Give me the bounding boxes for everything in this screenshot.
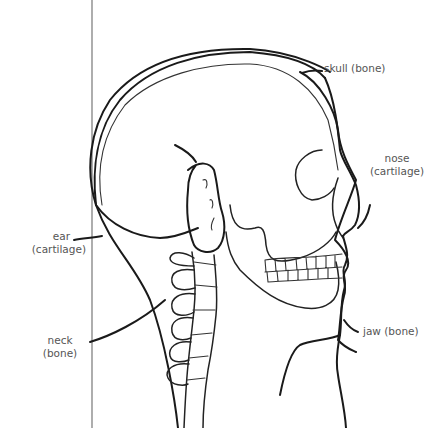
neck-label-name: neck — [40, 334, 80, 347]
skull-outer — [95, 52, 325, 205]
neck-leader — [90, 300, 165, 342]
eye-socket — [296, 150, 334, 200]
nose-label-type: (cartilage) — [362, 165, 432, 178]
neck-front — [280, 335, 340, 395]
anatomy-diagram: skull (bone) nose (cartilage) ear (carti… — [0, 0, 448, 428]
nose-outline — [325, 78, 359, 236]
vertebra-dividers — [187, 262, 217, 380]
neck-label-type: (bone) — [40, 347, 80, 360]
cheekbone — [230, 205, 336, 261]
jaw-label: jaw (bone) — [363, 325, 419, 338]
spinous-processes — [167, 253, 195, 385]
spine-column-front — [203, 255, 217, 428]
skull-label: skull (bone) — [324, 62, 385, 75]
ear-label-type: (cartilage) — [14, 243, 86, 256]
jaw-bone — [226, 232, 339, 308]
neck-label: neck (bone) — [40, 334, 80, 360]
ear-label-name: ear — [14, 230, 86, 243]
nose-label-name: nose — [362, 152, 432, 165]
ear-inner — [203, 180, 214, 230]
ear-outline — [175, 145, 224, 252]
nasal-cavity — [332, 178, 343, 238]
nose-label: nose (cartilage) — [362, 152, 432, 178]
ear-label: ear (cartilage) — [14, 230, 86, 256]
jaw-leader — [344, 320, 358, 332]
skull-base — [96, 205, 198, 238]
teeth-lower — [267, 268, 342, 282]
